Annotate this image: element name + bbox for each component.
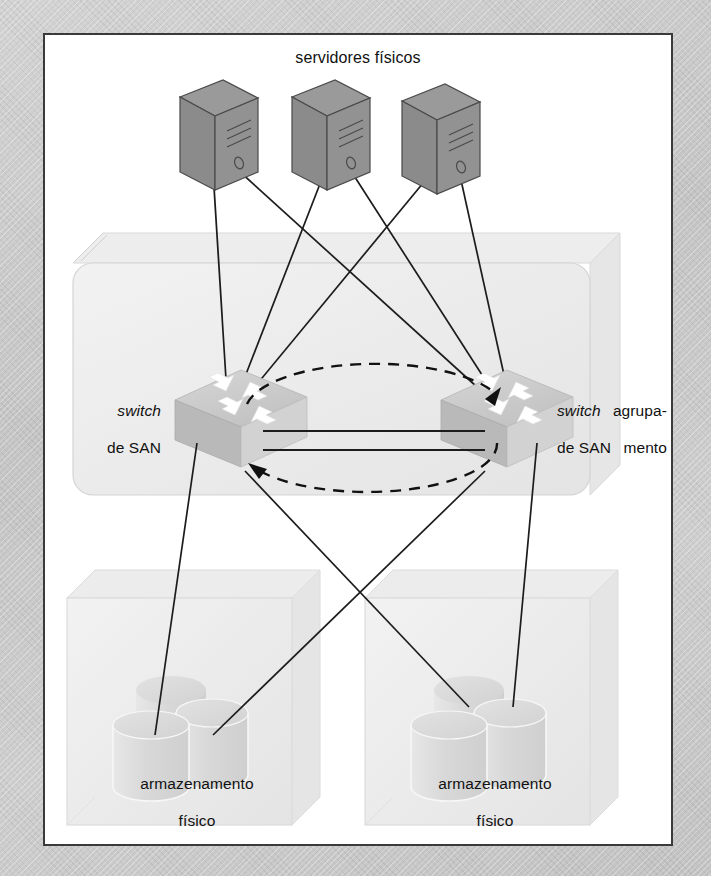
- switch-left-label-line2: de SAN: [49, 439, 161, 457]
- storage-left-label-line2: físico: [87, 812, 307, 830]
- switch-left-label-line1: switch: [49, 402, 161, 420]
- cluster-label: agrupa- mento: [531, 384, 667, 475]
- server-2: [292, 80, 370, 190]
- storage-left-label-line1: armazenamento: [87, 775, 307, 793]
- server-1: [180, 80, 258, 190]
- switch-left-label: switch de SAN: [49, 384, 161, 475]
- page-title: servidores físicos: [45, 49, 671, 68]
- cluster-label-line2: mento: [531, 439, 667, 457]
- storage-left-label: armazenamento físico: [87, 757, 307, 846]
- storage-right-label-line1: armazenamento: [385, 775, 605, 793]
- figure-frame: servidores físicos switch de SAN switch …: [43, 33, 673, 846]
- storage-right-label: armazenamento físico: [385, 757, 605, 846]
- server-3: [402, 84, 480, 194]
- storage-right-label-line2: físico: [385, 812, 605, 830]
- cluster-label-line1: agrupa-: [531, 402, 667, 420]
